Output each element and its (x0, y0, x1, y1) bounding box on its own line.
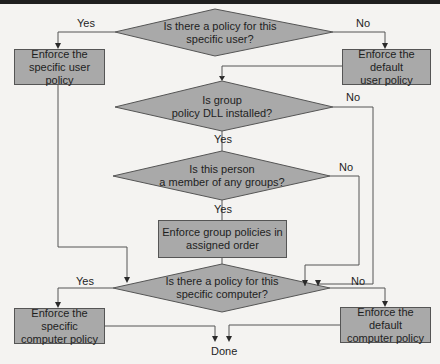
action-4-line1: Enforce the specific (15, 307, 104, 333)
action-group-policies: Enforce group policies inassigned order (158, 220, 287, 258)
label-d1-no: No (356, 17, 370, 29)
decision-2-text: Is group policy DLL installed? (152, 94, 292, 120)
action-2-line1: Enforce the default (343, 48, 430, 74)
label-d3-yes: Yes (214, 203, 232, 215)
label-d4-yes: Yes (76, 275, 94, 287)
decision-1-line1: Is there a policy for this (150, 20, 290, 33)
label-done: Done (211, 345, 237, 357)
label-d2-yes: Yes (214, 133, 232, 145)
label-d1-yes: Yes (77, 17, 95, 29)
action-3-line2: assigned order (162, 239, 282, 252)
decision-3-line1: Is this person (142, 163, 302, 176)
decision-3-line2: a member of any groups? (142, 176, 302, 189)
decision-4-text: Is there a policy for this specific comp… (152, 275, 292, 301)
action-default-user-policy: Enforce the defaultuser policy (342, 49, 431, 85)
label-d3-no: No (339, 161, 353, 173)
action-specific-computer-policy: Enforce the specificcomputer policy (14, 308, 105, 344)
action-2-line2: user policy (343, 74, 430, 87)
action-5-line2: computer policy (341, 332, 430, 345)
decision-4-line1: Is there a policy for this (152, 275, 292, 288)
decision-2-line2: policy DLL installed? (152, 107, 292, 120)
action-4-line2: computer policy (15, 333, 104, 346)
decision-4-line2: specific computer? (152, 288, 292, 301)
action-specific-user-policy: Enforce thespecific user policy (14, 49, 105, 85)
label-d4-no: No (351, 275, 365, 287)
action-1-line1: Enforce the (15, 48, 104, 61)
decision-1-line2: specific user? (150, 33, 290, 46)
action-5-line1: Enforce the default (341, 306, 430, 332)
decision-3-text: Is this person a member of any groups? (142, 163, 302, 189)
action-3-line1: Enforce group policies in (162, 226, 282, 239)
action-default-computer-policy: Enforce the defaultcomputer policy (340, 307, 431, 343)
decision-2-line1: Is group (152, 94, 292, 107)
decision-1-text: Is there a policy for this specific user… (150, 20, 290, 46)
action-1-line2: specific user policy (15, 61, 104, 87)
label-d2-no: No (346, 91, 360, 103)
